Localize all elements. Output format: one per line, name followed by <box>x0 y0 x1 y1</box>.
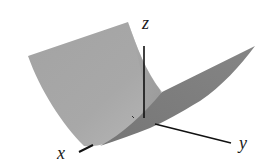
y-axis-label: y <box>237 133 247 153</box>
z-axis-label: z <box>141 13 149 33</box>
x-axis-label: x <box>56 143 65 163</box>
y-axis-line <box>155 124 231 143</box>
surface-plot-canvas: z x y <box>0 0 269 168</box>
surface-plot-figure: z x y <box>0 0 269 168</box>
